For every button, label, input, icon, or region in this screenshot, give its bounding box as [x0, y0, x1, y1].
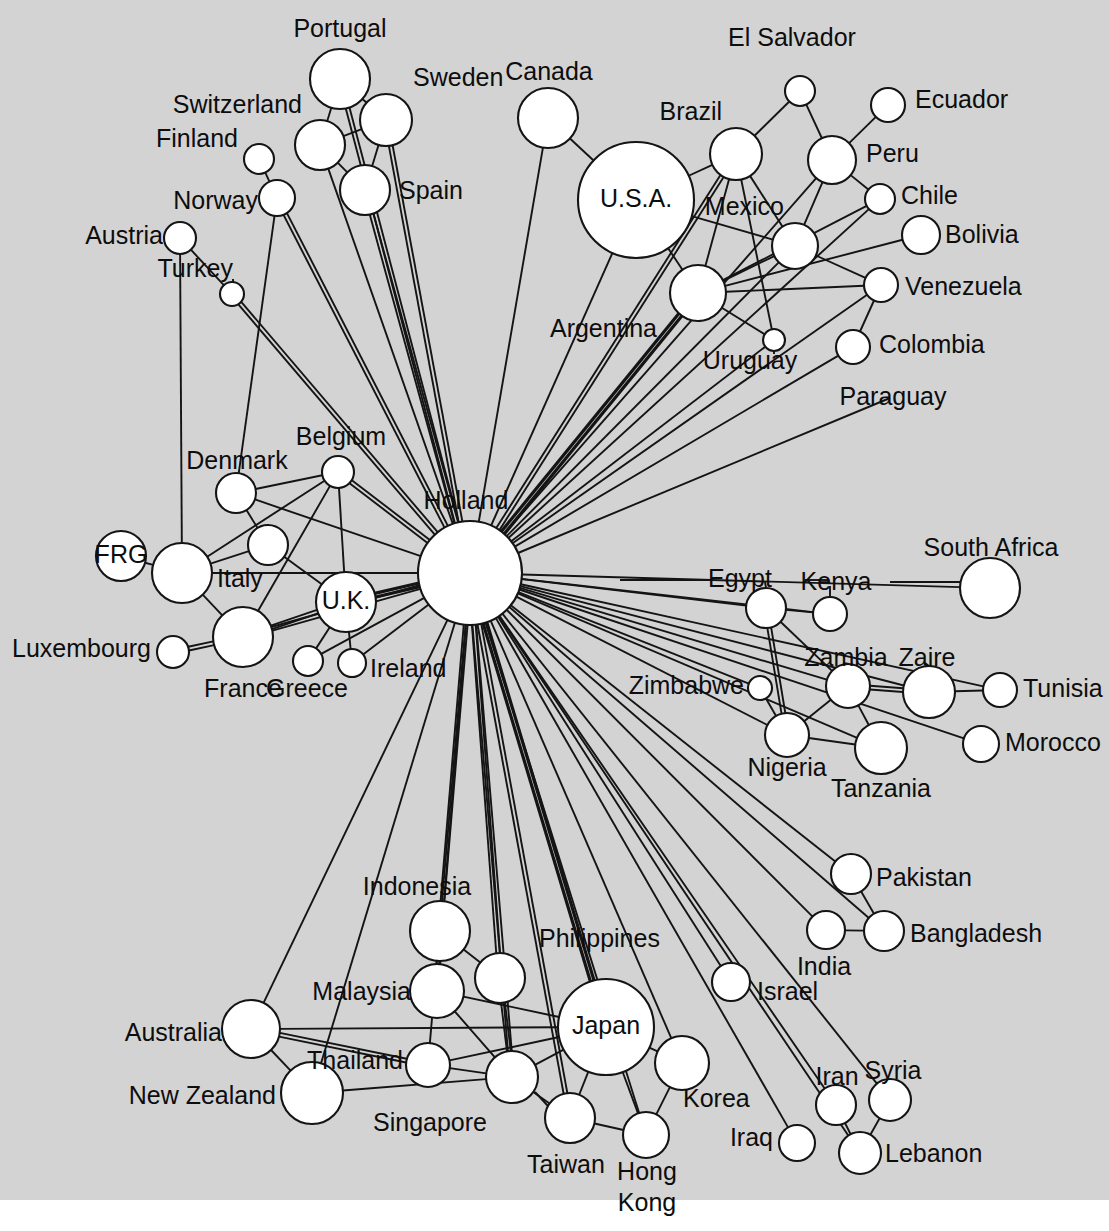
edge-switzerland-spain [338, 163, 348, 173]
node-label-spain: Spain [399, 176, 463, 204]
node-venezuela[interactable] [864, 268, 898, 302]
node-austria[interactable] [164, 222, 196, 254]
node-label-luxembourg: Luxembourg [12, 634, 151, 662]
node-label-bangladesh: Bangladesh [910, 919, 1042, 947]
node-portugal[interactable] [310, 49, 370, 109]
node-belgium[interactable] [322, 456, 354, 488]
node-philippines[interactable] [475, 953, 525, 1003]
edge-holland-norway [287, 213, 448, 526]
node-label-venezuela: Venezuela [905, 272, 1022, 300]
node-label-brazil: Brazil [659, 97, 722, 125]
edge-venezuela-argentina [726, 286, 864, 292]
node-egypt[interactable] [746, 588, 786, 628]
node-label-uk: U.K. [322, 586, 371, 614]
node-zimbabwe[interactable] [748, 676, 772, 700]
node-label-syria: Syria [865, 1056, 922, 1084]
edge-belgium-denmark [256, 475, 323, 489]
node-malaysia[interactable] [410, 964, 464, 1018]
node-taiwan[interactable] [545, 1093, 595, 1143]
node-label-elsalvador: El Salvador [728, 23, 856, 51]
node-label-argentina: Argentina [550, 314, 657, 342]
edge-holland-turkey [238, 304, 434, 534]
node-label-tanzania: Tanzania [831, 774, 931, 802]
node-label-uruguay: Uruguay [703, 346, 798, 374]
node-label-paraguay: Paraguay [839, 382, 947, 410]
node-label-usa: U.S.A. [600, 184, 672, 212]
edge-mexico-venezuela [816, 255, 866, 277]
node-turkey[interactable] [220, 282, 244, 306]
node-bolivia[interactable] [902, 216, 940, 254]
node-label-korea: Korea [683, 1084, 750, 1112]
node-iran[interactable] [816, 1085, 856, 1125]
node-italy[interactable] [152, 543, 212, 603]
node-label-colombia: Colombia [879, 330, 985, 358]
diagram-canvas: PortugalSwedenSwitzerlandFinlandSpainNor… [0, 0, 1109, 1231]
node-singapore[interactable] [486, 1051, 538, 1103]
edge-indonesia-philippines [464, 949, 481, 962]
edge-zambia-zaire [870, 690, 903, 692]
node-label-kenya: Kenya [801, 567, 872, 595]
node-luxembourg[interactable] [157, 636, 189, 668]
node-bangladesh[interactable] [864, 911, 904, 951]
edge-unlabeled1-uk [284, 557, 322, 584]
node-pakistan[interactable] [831, 854, 871, 894]
node-label-austria: Austria [85, 221, 163, 249]
node-label-pakistan: Pakistan [876, 863, 972, 891]
node-hongkong[interactable] [623, 1112, 669, 1158]
node-spain[interactable] [340, 165, 390, 215]
node-southafrica[interactable] [960, 558, 1020, 618]
edge-syria-lebanon [870, 1118, 879, 1134]
node-elsalvador[interactable] [785, 76, 815, 106]
node-greece[interactable] [293, 646, 323, 676]
node-label-zimbabwe: Zimbabwe [629, 671, 744, 699]
node-chile[interactable] [865, 184, 895, 214]
node-argentina[interactable] [670, 265, 726, 321]
node-morocco[interactable] [963, 726, 999, 762]
node-iraq[interactable] [779, 1125, 815, 1161]
node-nigeria[interactable] [765, 713, 809, 757]
node-label-nigeria: Nigeria [747, 753, 826, 781]
node-syria[interactable] [869, 1079, 911, 1121]
node-tanzania[interactable] [855, 722, 907, 774]
node-indonesia[interactable] [410, 901, 470, 961]
edge-france-uk [272, 613, 318, 629]
edge-nigeria-tanzania [809, 738, 855, 744]
node-tunisia[interactable] [983, 673, 1017, 707]
node-finland[interactable] [244, 144, 274, 174]
node-unlabeled1[interactable] [248, 525, 288, 565]
node-australia[interactable] [222, 1000, 280, 1058]
edge-japan-taiwan [579, 1072, 588, 1095]
edge-brazil-elsalvador [755, 102, 790, 136]
node-label-newzealand: New Zealand [129, 1081, 276, 1109]
node-label-tunisia: Tunisia [1023, 674, 1103, 702]
node-label-mexico: Mexico [705, 192, 784, 220]
node-label-sweden: Sweden [413, 63, 503, 91]
node-israel[interactable] [712, 963, 750, 1001]
node-korea[interactable] [655, 1036, 709, 1090]
node-label-egypt: Egypt [708, 564, 772, 592]
node-switzerland[interactable] [295, 120, 345, 170]
network-graph: PortugalSwedenSwitzerlandFinlandSpainNor… [0, 0, 1109, 1231]
node-denmark[interactable] [216, 473, 256, 513]
node-ecuador[interactable] [871, 88, 905, 122]
node-india[interactable] [807, 911, 845, 949]
edge-italy-unlabeled1 [211, 551, 249, 564]
edge-argentina-uruguay [722, 308, 765, 334]
node-zaire[interactable] [903, 666, 955, 718]
node-thailand[interactable] [406, 1043, 450, 1087]
edge-holland-norway [284, 215, 445, 528]
node-mexico[interactable] [772, 223, 818, 269]
node-label-japan: Japan [572, 1011, 640, 1039]
node-norway[interactable] [259, 180, 295, 216]
node-kenya[interactable] [813, 597, 847, 631]
node-brazil[interactable] [710, 128, 762, 180]
node-colombia[interactable] [836, 330, 870, 364]
node-lebanon[interactable] [839, 1132, 881, 1174]
node-peru[interactable] [808, 136, 856, 184]
edge-venezuela-colombia [860, 300, 874, 331]
node-canada[interactable] [518, 88, 578, 148]
node-holland[interactable] [418, 521, 522, 625]
node-france[interactable] [213, 607, 273, 667]
node-sweden[interactable] [360, 94, 412, 146]
node-label-portugal: Portugal [293, 14, 386, 42]
